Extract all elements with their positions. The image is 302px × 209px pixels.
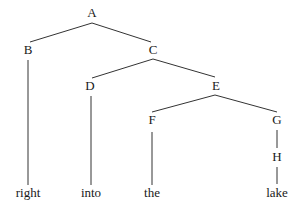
leaf-word-lake: lake xyxy=(266,185,288,200)
leaf-word-into: into xyxy=(81,185,101,200)
syntax-tree: ABCDEFGHrightintothelake xyxy=(0,0,302,209)
edge-A-B xyxy=(30,23,92,42)
leaf-word-the: the xyxy=(144,185,160,200)
edge-A-C xyxy=(92,23,151,42)
edge-C-E xyxy=(153,59,215,77)
edge-E-F xyxy=(152,95,215,112)
edge-C-D xyxy=(92,59,153,78)
node-G: G xyxy=(272,112,281,127)
edge-E-G xyxy=(215,95,277,112)
node-F: F xyxy=(148,112,155,127)
leaf-word-right: right xyxy=(16,185,41,200)
node-B: B xyxy=(24,42,33,57)
node-C: C xyxy=(149,42,158,57)
node-A: A xyxy=(87,5,97,20)
node-H: H xyxy=(272,149,281,164)
node-E: E xyxy=(212,78,220,93)
node-D: D xyxy=(85,78,94,93)
